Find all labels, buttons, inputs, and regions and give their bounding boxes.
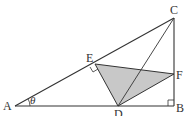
label-d: D bbox=[114, 107, 123, 116]
label-e: E bbox=[86, 51, 93, 65]
label-c: C bbox=[170, 3, 178, 17]
label-theta: θ bbox=[30, 94, 36, 106]
label-f: F bbox=[176, 68, 183, 82]
label-a: A bbox=[3, 99, 12, 113]
segment-cd bbox=[118, 18, 174, 106]
side-ac bbox=[15, 18, 174, 106]
shaded-triangle-def bbox=[95, 64, 174, 106]
label-b: B bbox=[176, 101, 184, 115]
geometry-figure: A B C D E F θ bbox=[0, 0, 186, 116]
right-angle-mark-b bbox=[168, 100, 174, 106]
